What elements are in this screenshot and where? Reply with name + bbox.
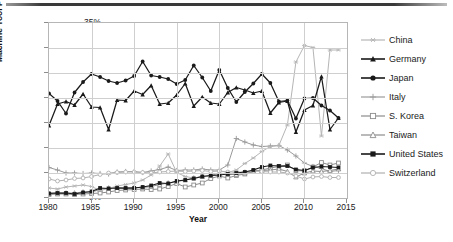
series-layer <box>49 23 347 198</box>
gridline-vertical <box>134 23 135 198</box>
legend-label: China <box>386 35 413 45</box>
gridline-horizontal <box>49 98 347 99</box>
legend-label: Switzerland <box>386 168 436 178</box>
legend-marker-asterisk-icon <box>360 34 386 46</box>
gridline-horizontal <box>49 148 347 149</box>
gridline-vertical <box>262 23 263 198</box>
legend-label: United States <box>386 149 443 159</box>
x-axis-title: Year <box>48 214 348 224</box>
legend-item-japan[interactable]: Japan <box>360 68 452 87</box>
gridline-vertical <box>304 23 305 198</box>
legend-item-italy[interactable]: Italy <box>360 87 452 106</box>
gridline-horizontal <box>49 73 347 74</box>
legend-label: Taiwan <box>386 130 417 140</box>
legend-marker-square-icon <box>360 148 386 160</box>
legend-item-s-korea[interactable]: S. Korea <box>360 106 452 125</box>
legend-marker-circle-icon <box>360 72 386 84</box>
legend-label: Italy <box>386 92 406 102</box>
plot-area <box>48 22 348 199</box>
x-axis-tick-label: 1990 <box>113 202 153 212</box>
legend-marker-triangle-open-icon <box>360 129 386 141</box>
machine-tool-production-chart: Machine Tool Production 0%5%10%15%20%25%… <box>0 10 453 242</box>
series-germany <box>49 74 341 134</box>
series-japan <box>49 60 340 121</box>
gridline-horizontal <box>49 173 347 174</box>
chart-legend: ChinaGermanyJapanItalyS. KoreaTaiwanUnit… <box>360 30 452 182</box>
x-axis-tick-label: 1985 <box>71 202 111 212</box>
legend-label: Japan <box>386 73 414 83</box>
x-axis-tick-mark <box>218 199 219 203</box>
x-axis-tick-label: 2015 <box>326 202 366 212</box>
y-axis-title: Machine Tool Production <box>0 0 4 62</box>
legend-item-china[interactable]: China <box>360 30 452 49</box>
legend-label: Germany <box>386 54 426 64</box>
x-axis-tick-label: 2010 <box>283 202 323 212</box>
x-axis-tick-label: 2005 <box>241 202 281 212</box>
legend-marker-triangle-icon <box>360 53 386 65</box>
x-axis-tick-mark <box>303 199 304 203</box>
legend-label: S. Korea <box>386 111 424 121</box>
x-axis-tick-label: 1995 <box>156 202 196 212</box>
gridline-vertical <box>177 23 178 198</box>
legend-item-united-states[interactable]: United States <box>360 144 452 163</box>
legend-item-switzerland[interactable]: Switzerland <box>360 163 452 182</box>
gridline-horizontal <box>49 48 347 49</box>
x-axis-tick-label: 1980 <box>28 202 68 212</box>
gridline-vertical <box>92 23 93 198</box>
legend-marker-square-open-icon <box>360 110 386 122</box>
x-axis-tick-mark <box>133 199 134 203</box>
legend-item-germany[interactable]: Germany <box>360 49 452 68</box>
x-axis-tick-mark <box>346 199 347 203</box>
x-axis-tick-label: 2000 <box>198 202 238 212</box>
header-divider <box>6 3 447 6</box>
x-axis-tick-mark <box>261 199 262 203</box>
chart-page: Machine Tool Production 0%5%10%15%20%25%… <box>0 0 453 242</box>
series-united-states <box>49 164 340 196</box>
x-axis-tick-mark <box>176 199 177 203</box>
legend-marker-circle-open-icon <box>360 167 386 179</box>
legend-marker-plus-icon <box>360 91 386 103</box>
gridline-horizontal <box>49 123 347 124</box>
legend-item-taiwan[interactable]: Taiwan <box>360 125 452 144</box>
x-axis-tick-mark <box>91 199 92 203</box>
gridline-vertical <box>219 23 220 198</box>
x-axis-tick-mark <box>48 199 49 203</box>
